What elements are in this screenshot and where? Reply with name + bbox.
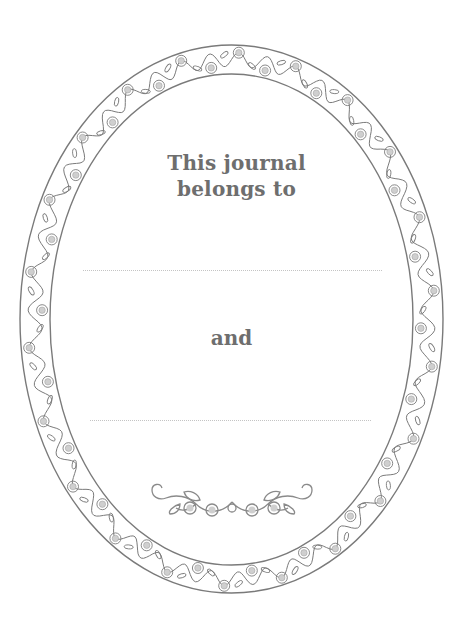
vine-pattern-icon [24,47,440,591]
inner-oval-border [50,74,413,565]
connector-text: and [0,325,463,351]
outer-oval-border [20,45,443,593]
owner-2-name-line[interactable] [90,420,371,421]
owner-1-name-line[interactable] [83,270,382,271]
title-line-1: This journal [0,150,473,176]
floral-divider-icon [152,484,312,516]
oval-floral-frame-icon [0,0,473,626]
title-line-2: belongs to [0,176,473,202]
